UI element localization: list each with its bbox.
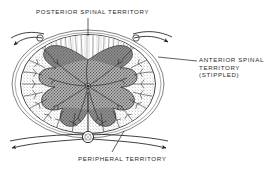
peripheral-label-line-1: PERIPHERAL TERRITORY bbox=[78, 155, 167, 163]
figure-canvas: POSTERIOR SPINAL TERRITORY ANTERIOR SPIN… bbox=[0, 0, 276, 173]
anterior-label-line-1: ANTERIOR SPINAL bbox=[199, 56, 264, 64]
anterior-spinal-territory-label: ANTERIOR SPINAL TERRITORY (STIPPLED) bbox=[199, 56, 264, 79]
peripheral-territory-label: PERIPHERAL TERRITORY bbox=[78, 155, 167, 163]
spinal-cord-cross-section-diagram bbox=[0, 0, 276, 173]
anterior-spinal-artery bbox=[82, 131, 93, 142]
territory-fills bbox=[22, 30, 154, 134]
anterior-label-line-3: (STIPPLED) bbox=[199, 71, 264, 79]
leader-anterior bbox=[158, 57, 197, 61]
posterior-label-line-1: POSTERIOR SPINAL TERRITORY bbox=[36, 8, 149, 16]
posterior-spinal-territory-label: POSTERIOR SPINAL TERRITORY bbox=[36, 8, 149, 16]
anterior-label-line-2: TERRITORY bbox=[199, 64, 264, 72]
